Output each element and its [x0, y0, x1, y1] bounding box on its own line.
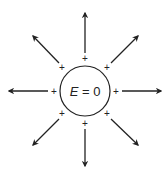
field-arrow-up-right [111, 36, 138, 63]
charge-top: + [82, 53, 88, 64]
charge-top-right: + [104, 62, 110, 73]
charge-top-left: + [59, 62, 65, 73]
field-arrow-down-left [33, 119, 59, 145]
field-inside-label: E = 0 [70, 84, 101, 99]
charge-bottom-left: + [59, 108, 65, 119]
charge-right: + [113, 86, 119, 97]
field-arrow-up-left [33, 36, 59, 63]
charge-left: + [51, 86, 57, 97]
charge-bottom: + [82, 118, 88, 129]
charge-bottom-right: + [104, 108, 110, 119]
field-diagram: E = 0 + + + + + + + + [0, 0, 168, 175]
field-arrow-down-right [111, 119, 138, 145]
